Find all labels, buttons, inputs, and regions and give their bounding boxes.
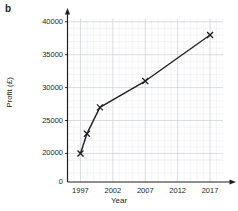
x-axis-title: Year xyxy=(0,196,238,205)
y-axis-title: Profit (£) xyxy=(5,63,14,123)
y-origin-label: 0 xyxy=(59,177,63,186)
y-tick-label: 35000 xyxy=(42,50,63,59)
y-axis-arrowhead xyxy=(65,8,70,15)
x-axis-arrowhead xyxy=(230,179,237,184)
y-tick-label: 30000 xyxy=(42,83,63,92)
x-tick-label: 2017 xyxy=(202,186,219,195)
y-tick-label: 40000 xyxy=(42,17,63,26)
x-tick-label: 2012 xyxy=(169,186,186,195)
x-tick-label: 2002 xyxy=(105,186,122,195)
x-tick-label: 2007 xyxy=(137,186,154,195)
x-tick-label: 1997 xyxy=(72,186,89,195)
chart-figure: b 20000250003000035000400000 19972002200… xyxy=(0,0,238,211)
y-tick-label: 25000 xyxy=(42,116,63,125)
y-tick-label: 20000 xyxy=(42,148,63,157)
